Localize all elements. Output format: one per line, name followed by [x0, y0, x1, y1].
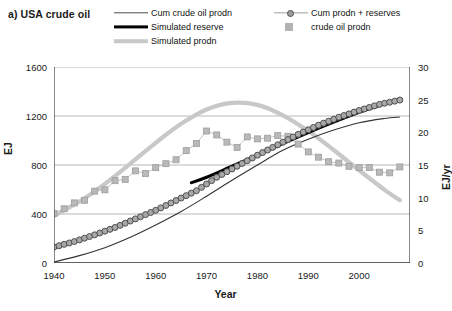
y-tick-label-4: 1600: [26, 62, 47, 73]
plot-canvas: [54, 67, 410, 263]
x-tick-label-1950: 1950: [94, 270, 115, 281]
legend-line-swatch-icon: [114, 7, 148, 19]
legend-line-circle-swatch-icon: [274, 7, 308, 19]
y-tick-label-1: 400: [31, 209, 47, 220]
y-tick-label-2: 800: [31, 160, 47, 171]
legend-label: Simulated prodn: [151, 36, 217, 46]
legend-item-simulated-prodn: Simulated prodn: [114, 35, 217, 47]
chart-legend: Cum crude oil prodn Simulated reserve Si…: [114, 6, 446, 52]
x-tick-label-2000: 2000: [349, 270, 370, 281]
x-tick-label-1990: 1990: [298, 270, 319, 281]
legend-item-cum-prodn-plus-reserves: Cum prodn + reserves: [274, 7, 400, 19]
legend-label: Simulated reserve: [151, 22, 224, 32]
y2-tick-label-5: 25: [418, 94, 429, 105]
legend-label: crude oil prodn: [311, 22, 371, 32]
legend-line-swatch-icon: [114, 35, 148, 47]
legend-item-simulated-reserve: Simulated reserve: [114, 21, 224, 33]
legend-label: Cum crude oil prodn: [151, 8, 232, 18]
y-tick-label-3: 1200: [26, 111, 47, 122]
legend-line-swatch-icon: [114, 21, 148, 33]
x-axis-label: Year: [0, 288, 451, 300]
y2-tick-label-3: 15: [418, 160, 429, 171]
y2-tick-label-1: 5: [418, 225, 423, 236]
y-tick-label-0: 0: [42, 258, 47, 269]
y2-tick-label-4: 20: [418, 127, 429, 138]
legend-label: Cum prodn + reserves: [311, 8, 400, 18]
x-tick-label-1940: 1940: [43, 270, 64, 281]
plot-area: [54, 67, 410, 263]
y2-axis-label: EJ/yr: [440, 164, 452, 190]
legend-item-cum-crude-oil-prodn: Cum crude oil prodn: [114, 7, 232, 19]
page-title: a) USA crude oil: [8, 8, 90, 20]
y2-tick-label-6: 30: [418, 62, 429, 73]
y-axis-label: EJ: [2, 142, 14, 155]
y2-tick-label-2: 10: [418, 192, 429, 203]
x-tick-label-1980: 1980: [247, 270, 268, 281]
legend-square-swatch-icon: [274, 21, 308, 33]
x-tick-label-1960: 1960: [145, 270, 166, 281]
x-tick-label-1970: 1970: [196, 270, 217, 281]
legend-item-crude-oil-prodn: crude oil prodn: [274, 21, 371, 33]
y2-tick-label-0: 0: [418, 258, 423, 269]
